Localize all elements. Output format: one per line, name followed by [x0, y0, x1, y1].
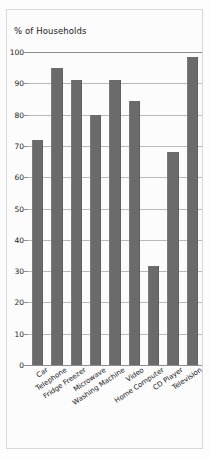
- bar-cd-player: [167, 152, 178, 365]
- y-tick-label-60: 60: [0, 173, 24, 182]
- bar-home-computer: [148, 266, 159, 365]
- bar-video: [129, 101, 140, 365]
- y-tick-label-100: 100: [0, 48, 24, 57]
- chart-title: % of Households: [14, 26, 87, 36]
- y-tick-label-20: 20: [0, 298, 24, 307]
- plot-area: [28, 52, 202, 365]
- x-axis-labels: CarTelephoneFridge FreezerMicrowaveWashi…: [28, 366, 210, 454]
- y-tick-label-40: 40: [0, 235, 24, 244]
- y-tick-label-50: 50: [0, 204, 24, 213]
- y-tick-label-90: 90: [0, 79, 24, 88]
- gridline-100: [28, 52, 202, 53]
- y-tick-label-70: 70: [0, 141, 24, 150]
- bar-telephone: [51, 68, 62, 365]
- bar-car: [32, 140, 43, 365]
- y-tick-label-10: 10: [0, 329, 24, 338]
- bar-washing-machine: [109, 80, 120, 365]
- chart-figure: % of Households 0102030405060708090100 C…: [0, 0, 210, 458]
- bar-microwave: [90, 115, 101, 365]
- y-tick-label-0: 0: [0, 361, 24, 370]
- bar-fridge-freezer: [71, 80, 82, 365]
- bar-television: [187, 57, 198, 365]
- y-tick-label-30: 30: [0, 267, 24, 276]
- y-axis: 0102030405060708090100: [0, 52, 24, 365]
- y-tick-label-80: 80: [0, 110, 24, 119]
